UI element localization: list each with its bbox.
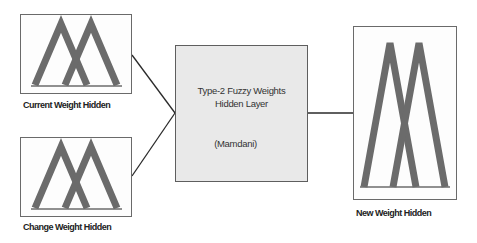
change-weight-box [20, 137, 132, 217]
membership-function-icon [21, 138, 133, 218]
change-weight-label: Change Weight Hidden [23, 222, 111, 232]
type2-fuzzy-processor-box: Type-2 Fuzzy Weights Hidden Layer (Mamda… [175, 45, 308, 182]
new-weight-label: New Weight Hidden [356, 208, 431, 218]
processor-title-line1: Type-2 Fuzzy Weights [176, 85, 307, 96]
connector-current-to-processor [132, 55, 175, 113]
membership-function-icon [354, 27, 458, 201]
processor-title-line2: Hidden Layer [176, 98, 307, 109]
current-weight-box [20, 14, 132, 94]
current-weight-label: Current Weight Hidden [23, 100, 110, 110]
connector-change-to-processor [132, 113, 175, 176]
membership-function-icon [21, 15, 133, 95]
new-weight-box [353, 26, 457, 200]
processor-subtitle: (Mamdani) [170, 138, 301, 149]
